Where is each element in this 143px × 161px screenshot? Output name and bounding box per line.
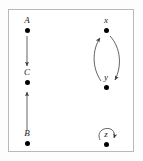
node-dot-b (25, 141, 30, 146)
node-label-b: B (20, 129, 34, 138)
node-label-z: z (99, 130, 113, 139)
node-label-y: y (99, 73, 113, 82)
node-dot-z (104, 142, 109, 147)
node-label-a: A (20, 16, 34, 25)
node-label-x: x (99, 16, 113, 25)
node-dot-c (25, 80, 30, 85)
node-dot-y (104, 85, 109, 90)
node-dot-x (104, 28, 109, 33)
node-dot-a (25, 28, 30, 33)
graph-figure: A C B x y z (0, 0, 143, 161)
node-label-c: C (20, 68, 34, 77)
